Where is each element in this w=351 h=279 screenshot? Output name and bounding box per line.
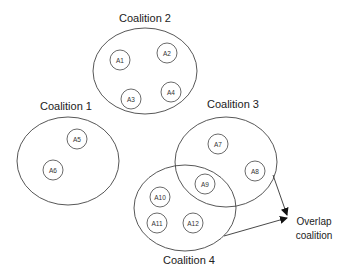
coalition-4-ellipse	[134, 165, 236, 251]
coalition-1-title: Coalition 1	[40, 100, 92, 112]
agent-a8: A8	[245, 161, 265, 181]
agent-a9-label: A9	[201, 181, 209, 188]
coalition-4: A9 A10 A11 A12 Coalition 4	[134, 165, 236, 266]
agent-a5-label: A5	[73, 136, 81, 143]
agent-a12: A12	[183, 213, 203, 233]
agent-a12-label: A12	[187, 220, 199, 227]
agent-a9: A9	[195, 174, 215, 194]
agent-a10: A10	[150, 187, 170, 207]
coalition-3-ellipse	[175, 117, 277, 207]
coalition-diagram: Coalition 2 A1 A2 A3 A4 Coalition 1 A5 A…	[0, 0, 351, 279]
agent-a2: A2	[157, 43, 177, 63]
coalition-1-ellipse	[17, 117, 119, 205]
overlap-label-line2: coalition	[296, 230, 333, 241]
agent-a1: A1	[110, 50, 130, 70]
agent-a6-label: A6	[49, 167, 57, 174]
agent-a1-label: A1	[116, 57, 124, 64]
agent-a5: A5	[67, 129, 87, 149]
coalition-2-title: Coalition 2	[119, 12, 171, 24]
agent-a10-label: A10	[154, 194, 166, 201]
agent-a7: A7	[208, 134, 228, 154]
coalition-3-title: Coalition 3	[207, 98, 259, 110]
coalition-1: Coalition 1 A5 A6	[17, 100, 119, 205]
agent-a11: A11	[147, 213, 167, 233]
diagram-svg: Coalition 2 A1 A2 A3 A4 Coalition 1 A5 A…	[0, 0, 351, 279]
overlap-label-line1: Overlap	[296, 216, 331, 227]
coalition-2: Coalition 2 A1 A2 A3 A4	[93, 12, 197, 114]
coalition-4-title: Coalition 4	[163, 254, 215, 266]
agent-a11-label: A11	[151, 220, 162, 227]
agent-a3-label: A3	[127, 96, 135, 103]
arrow-from-coalition-3	[273, 175, 287, 215]
agent-a4: A4	[161, 82, 181, 102]
coalition-2-ellipse	[93, 28, 197, 114]
overlap-annotation: Overlap coalition	[296, 216, 333, 241]
agent-a7-label: A7	[214, 141, 222, 148]
agent-a4-label: A4	[167, 89, 175, 96]
agent-a8-label: A8	[251, 168, 259, 175]
coalition-3: Coalition 3 A7 A8	[175, 98, 277, 207]
agent-a6: A6	[43, 160, 63, 180]
agent-a2-label: A2	[163, 50, 171, 57]
agent-a3: A3	[121, 89, 141, 109]
